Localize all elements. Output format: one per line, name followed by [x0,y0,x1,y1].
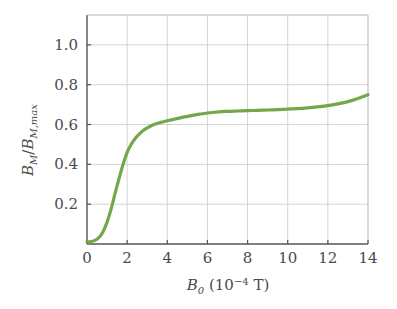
x-tick-label: 2 [122,249,132,267]
y-tick-label: 0.8 [54,76,78,94]
x-tick-label: 4 [163,249,173,267]
x-tick-label: 0 [82,249,92,267]
y-tick-label: 0.4 [54,155,78,173]
x-tick-label: 14 [358,249,377,267]
x-tick-label: 10 [278,249,297,267]
y-tick-label: 0.2 [54,195,78,213]
chart-figure: 02468101214 0.20.40.60.81.0 B0 (10−4 T) … [0,0,397,309]
y-tick-label: 0.6 [54,116,78,134]
x-tick-label: 6 [203,249,213,267]
x-tick-label: 8 [243,249,253,267]
y-tick-label: 1.0 [54,36,78,54]
chart-svg: 02468101214 0.20.40.60.81.0 B0 (10−4 T) … [0,0,397,309]
x-tick-label: 12 [318,249,337,267]
